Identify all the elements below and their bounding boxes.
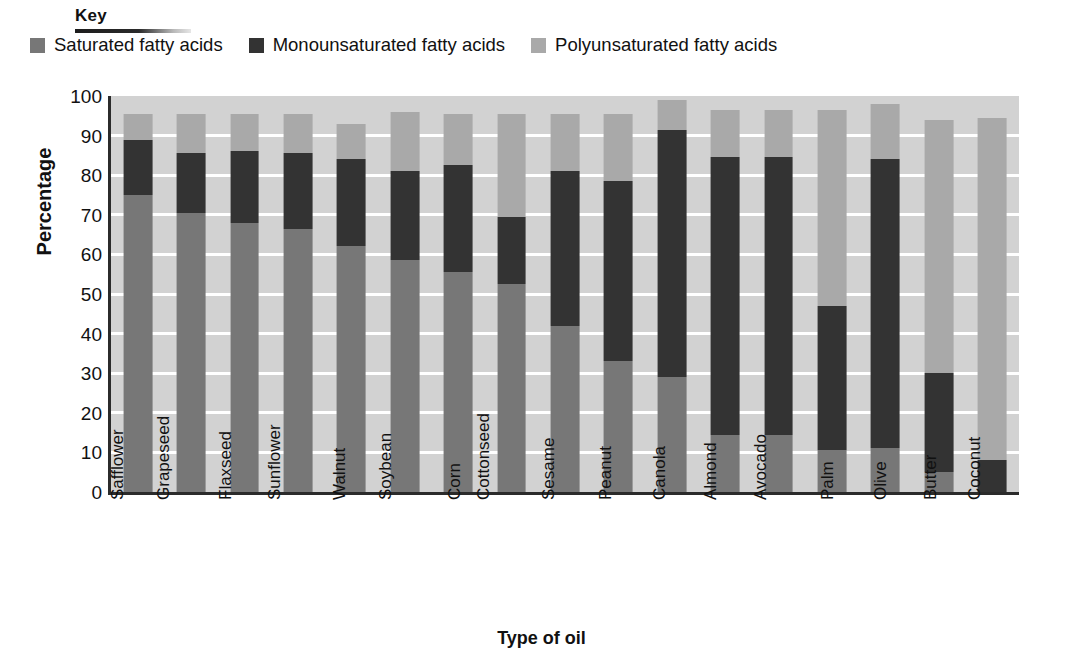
stacked-bar[interactable] <box>444 114 473 492</box>
bar-segment[interactable] <box>444 272 473 492</box>
legend-item: Saturated fatty acids <box>30 36 223 55</box>
x-axis-tick-label: Corn <box>445 463 465 500</box>
bar-slot[interactable] <box>645 96 698 492</box>
y-axis-tick-label: 60 <box>50 245 102 264</box>
stacked-bar[interactable] <box>551 114 580 492</box>
x-axis-label-slot: Walnut <box>322 500 375 610</box>
bar-segment[interactable] <box>177 153 206 212</box>
legend-label: Polyunsaturated fatty acids <box>555 36 777 55</box>
bar-segment[interactable] <box>123 114 152 140</box>
y-axis-tick-label: 50 <box>50 285 102 304</box>
legend-item: Monounsaturated fatty acids <box>249 36 505 55</box>
bar-segment[interactable] <box>177 213 206 492</box>
bar-slot[interactable] <box>698 96 751 492</box>
bar-segment[interactable] <box>284 114 313 154</box>
y-axis-tick-label: 40 <box>50 325 102 344</box>
x-axis-label-slot: Canola <box>642 500 695 610</box>
bar-slot[interactable] <box>752 96 805 492</box>
x-axis-label-slot: Sunflower <box>268 500 321 610</box>
key-title: Key <box>75 6 107 28</box>
bar-segment[interactable] <box>337 159 366 246</box>
y-axis-tick-label: 10 <box>50 443 102 462</box>
bar-segment[interactable] <box>497 284 526 492</box>
bar-segment[interactable] <box>711 110 740 158</box>
y-axis-tick-label: 100 <box>50 87 102 106</box>
bar-slot[interactable] <box>592 96 645 492</box>
bar-slot[interactable] <box>325 96 378 492</box>
bar-segment[interactable] <box>390 112 419 171</box>
bar-segment[interactable] <box>818 110 847 306</box>
x-axis-label-slot: Cottonseed <box>482 500 535 610</box>
bar-segment[interactable] <box>444 165 473 272</box>
bar-segment[interactable] <box>497 114 526 217</box>
bar-segment[interactable] <box>551 114 580 171</box>
x-axis-tick-label: Flaxseed <box>215 431 235 500</box>
stacked-bar-chart: Key Saturated fatty acidsMonounsaturated… <box>0 0 1083 666</box>
x-axis-labels: SafflowerGrapeseedFlaxseedSunflowerWalnu… <box>108 500 1016 610</box>
x-axis-tick-label: Sunflower <box>265 424 285 500</box>
stacked-bar[interactable] <box>604 114 633 492</box>
x-axis-label-slot: Grapeseed <box>161 500 214 610</box>
x-axis-tick-label: Cottonseed <box>473 413 493 500</box>
bar-segment[interactable] <box>871 104 900 159</box>
x-axis-tick-label: Grapeseed <box>154 416 174 500</box>
stacked-bar[interactable] <box>497 114 526 492</box>
bar-segment[interactable] <box>978 118 1007 461</box>
bar-segment[interactable] <box>390 171 419 260</box>
bar-segment[interactable] <box>818 306 847 451</box>
x-axis-label-slot: Safflower <box>108 500 161 610</box>
stacked-bar[interactable] <box>177 114 206 492</box>
stacked-bar[interactable] <box>711 110 740 492</box>
bar-segment[interactable] <box>551 171 580 325</box>
bar-segment[interactable] <box>604 114 633 181</box>
x-axis-label-slot: Corn <box>428 500 481 610</box>
y-axis-tick-label: 20 <box>50 404 102 423</box>
y-axis-tick-label: 30 <box>50 364 102 383</box>
bar-slot[interactable] <box>538 96 591 492</box>
bar-segment[interactable] <box>337 124 366 160</box>
legend-item: Polyunsaturated fatty acids <box>531 36 777 55</box>
key-underline-divider <box>75 29 191 33</box>
bar-segment[interactable] <box>444 114 473 165</box>
bar-slot[interactable] <box>966 96 1019 492</box>
bar-segment[interactable] <box>123 140 152 195</box>
bar-segment[interactable] <box>230 114 259 152</box>
stacked-bar[interactable] <box>871 104 900 492</box>
bar-segment[interactable] <box>177 114 206 154</box>
x-axis-tick-label: Olive <box>871 461 891 500</box>
bar-segment[interactable] <box>604 181 633 361</box>
x-axis-tick-label: Avocado <box>751 434 771 500</box>
x-axis-tick-label: Peanut <box>596 446 616 500</box>
stacked-bar[interactable] <box>818 110 847 492</box>
stacked-bar[interactable] <box>337 124 366 492</box>
plot-area <box>108 96 1019 495</box>
bar-slot[interactable] <box>805 96 858 492</box>
bar-segment[interactable] <box>711 157 740 434</box>
bar-segment[interactable] <box>924 120 953 373</box>
stacked-bar[interactable] <box>924 120 953 492</box>
legend: Saturated fatty acidsMonounsaturated fat… <box>30 36 803 55</box>
x-axis-tick-label: Almond <box>701 442 721 500</box>
bar-segment[interactable] <box>284 229 313 492</box>
x-axis-tick-label: Palm <box>818 461 838 500</box>
bar-segment[interactable] <box>657 100 686 130</box>
y-axis-title: Percentage <box>33 112 56 292</box>
x-axis-tick-label: Soybean <box>376 433 396 500</box>
bar-segment[interactable] <box>764 157 793 434</box>
bar-segment[interactable] <box>764 110 793 158</box>
bar-segment[interactable] <box>497 217 526 284</box>
stacked-bar[interactable] <box>284 114 313 492</box>
stacked-bar[interactable] <box>657 100 686 492</box>
y-axis-tick-label: 70 <box>50 206 102 225</box>
bar-segment[interactable] <box>657 130 686 378</box>
bar-slot[interactable] <box>859 96 912 492</box>
bar-slot[interactable] <box>912 96 965 492</box>
bar-segment[interactable] <box>871 159 900 448</box>
bar-segment[interactable] <box>230 151 259 222</box>
legend-swatch-icon <box>30 38 45 53</box>
x-axis-tick-label: Walnut <box>330 448 350 500</box>
bar-segment[interactable] <box>284 153 313 228</box>
x-axis-label-slot: Palm <box>802 500 855 610</box>
x-axis-title: Type of oil <box>0 628 1083 649</box>
x-axis-label-slot: Almond <box>695 500 748 610</box>
